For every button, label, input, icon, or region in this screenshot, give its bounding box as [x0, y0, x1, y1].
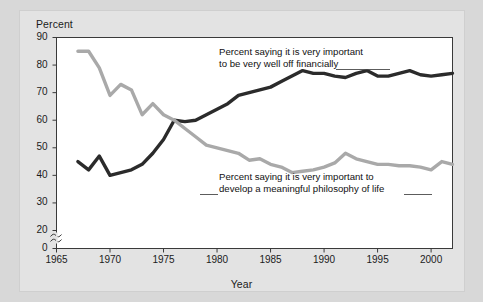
y-tick-label: 60	[24, 114, 48, 125]
annotation-line-2: develop a meaningful philosophy of life	[219, 183, 384, 195]
y-tick-label: 30	[24, 196, 48, 207]
chart-figure: Percent Year Percent saying it is very i…	[0, 0, 483, 302]
x-tick-label: 1995	[358, 254, 398, 265]
x-axis-tick-marks	[57, 249, 432, 253]
x-tick-label: 1965	[37, 254, 77, 265]
y-tick-label: 70	[24, 86, 48, 97]
annotation-well-off-financially: Percent saying it is very important to b…	[219, 46, 363, 69]
y-tick-label: 50	[24, 141, 48, 152]
x-tick-label: 1970	[90, 254, 130, 265]
annotation-line-2: to be very well off financially	[219, 58, 363, 70]
annotation-line-1: Percent saying it is very important to	[219, 171, 384, 183]
y-axis-tick-marks	[53, 38, 57, 249]
annotation-line-1: Percent saying it is very important	[219, 46, 363, 58]
annotation-philosophy-of-life: Percent saying it is very important to d…	[219, 171, 384, 194]
x-tick-label: 1975	[144, 254, 184, 265]
x-tick-label: 1985	[251, 254, 291, 265]
x-tick-label: 1990	[304, 254, 344, 265]
y-tick-label: 90	[24, 31, 48, 42]
y-tick-label: 40	[24, 169, 48, 180]
x-tick-label: 2000	[411, 254, 451, 265]
y-tick-label: 20	[24, 224, 48, 235]
y-tick-label: 80	[24, 59, 48, 70]
x-tick-label: 1980	[197, 254, 237, 265]
y-tick-label: 0	[24, 242, 48, 253]
